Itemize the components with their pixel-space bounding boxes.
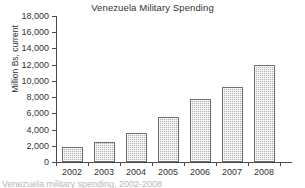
y-axis-tick bbox=[52, 81, 57, 82]
x-axis-tick bbox=[216, 162, 217, 166]
y-axis-tick-label: 6,000 bbox=[26, 109, 49, 118]
x-axis-tick bbox=[120, 162, 121, 166]
y-axis-tick bbox=[52, 113, 57, 114]
x-axis-tick bbox=[280, 162, 281, 166]
bar bbox=[158, 117, 179, 162]
x-axis-tick bbox=[248, 162, 249, 166]
y-axis-tick bbox=[52, 97, 57, 98]
figure-caption: Venezuela military spending, 2002-2008 bbox=[2, 179, 303, 188]
x-axis-line bbox=[56, 162, 292, 163]
x-axis-tick-label: 2008 bbox=[244, 167, 284, 177]
x-axis-tick bbox=[56, 162, 57, 166]
chart-figure: Venezuela Military Spending Million Bs, … bbox=[0, 0, 305, 188]
y-axis-tick-label: 14,000 bbox=[21, 44, 49, 53]
plot-area: 18,00016,00014,00012,00010,0008,0006,000… bbox=[56, 16, 292, 164]
y-axis-tick-label: 16,000 bbox=[21, 28, 49, 37]
y-axis-tick-label: 12,000 bbox=[21, 60, 49, 69]
y-axis-tick-label: 0 bbox=[44, 158, 49, 167]
bar bbox=[94, 142, 115, 162]
y-axis-tick bbox=[52, 130, 57, 131]
y-axis-tick-label: 8,000 bbox=[26, 93, 49, 102]
y-axis-tick-label: 4,000 bbox=[26, 125, 49, 134]
x-axis-tick bbox=[184, 162, 185, 166]
y-axis-tick bbox=[52, 146, 57, 147]
bar bbox=[190, 99, 211, 162]
y-axis-tick-label: 18,000 bbox=[21, 12, 49, 21]
bar bbox=[126, 133, 147, 162]
x-axis-tick bbox=[152, 162, 153, 166]
bar bbox=[62, 147, 83, 162]
y-axis-line bbox=[56, 16, 57, 163]
y-axis-title: Million Bs, current bbox=[10, 11, 20, 107]
y-axis-tick bbox=[52, 65, 57, 66]
y-axis-tick bbox=[52, 48, 57, 49]
x-axis-tick bbox=[88, 162, 89, 166]
y-axis-tick bbox=[52, 32, 57, 33]
y-axis-tick bbox=[52, 16, 57, 17]
bar bbox=[254, 65, 275, 162]
bar bbox=[222, 87, 243, 162]
y-axis-tick-label: 10,000 bbox=[21, 76, 49, 85]
y-axis-tick-label: 2,000 bbox=[26, 141, 49, 150]
